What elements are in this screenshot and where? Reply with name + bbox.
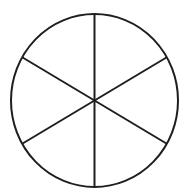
six-sector-circle-svg: [0, 0, 188, 194]
circle-diagram: [0, 0, 188, 194]
